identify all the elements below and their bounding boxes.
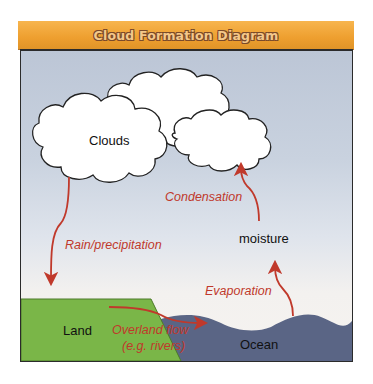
diagram-frame: Cloud Formation Diagram xyxy=(18,21,354,361)
rain-arrow-icon xyxy=(51,177,69,279)
cloud-right-icon xyxy=(172,110,270,171)
moisture-label: moisture xyxy=(239,231,289,246)
condensation-label: Condensation xyxy=(165,190,242,204)
clouds-label: Clouds xyxy=(89,133,129,148)
title-bar: Cloud Formation Diagram xyxy=(18,21,354,49)
evaporation-label: Evaporation xyxy=(205,284,272,298)
diagram-title: Cloud Formation Diagram xyxy=(94,28,279,43)
overland-flow-label: Overland flow xyxy=(112,323,188,337)
land-label: Land xyxy=(63,323,92,338)
diagram-graphics xyxy=(21,51,352,361)
condensation-arrow-icon xyxy=(241,169,259,221)
overland-flow-example-label: (e.g. rivers) xyxy=(122,339,185,353)
ocean-label: Ocean xyxy=(240,337,278,352)
rain-label: Rain/precipitation xyxy=(65,238,162,252)
evaporation-arrow-icon xyxy=(275,267,293,316)
diagram-panel: Clouds Condensation moisture Rain/precip… xyxy=(20,49,353,362)
